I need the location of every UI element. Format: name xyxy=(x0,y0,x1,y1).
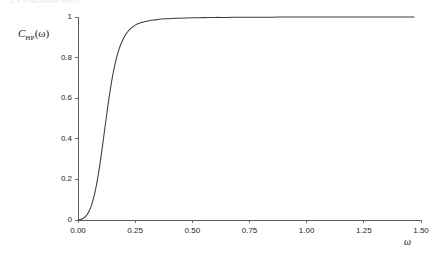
y-tick-label: 0 xyxy=(44,215,72,224)
x-tick-label: 1.25 xyxy=(344,226,384,235)
x-tick-label: 1.00 xyxy=(287,226,327,235)
y-tick-label: 0.6 xyxy=(44,93,72,102)
y-tick-label: 0.4 xyxy=(44,134,72,143)
figure-plot: CHP(ω) ω 00.20.40.60.810.000.250.500.751… xyxy=(0,0,433,261)
x-tick-label: 0.50 xyxy=(172,226,212,235)
y-axis-label-argument: (ω) xyxy=(35,27,50,39)
y-tick-label: 1 xyxy=(44,12,72,21)
data-curve-chp xyxy=(78,17,414,220)
y-axis-label-subscript: HP xyxy=(25,34,34,42)
y-axis-label: CHP(ω) xyxy=(18,27,49,42)
x-tick-label: 0.75 xyxy=(230,226,270,235)
x-tick-label: 1.50 xyxy=(401,226,433,235)
y-tick-label: 0.2 xyxy=(44,174,72,183)
data-series-group xyxy=(78,17,414,220)
x-tick-label: 0.00 xyxy=(58,226,98,235)
x-tick-label: 0.25 xyxy=(115,226,155,235)
x-axis-label: ω xyxy=(404,236,411,247)
axes-group xyxy=(78,17,421,220)
y-tick-label: 0.8 xyxy=(44,53,72,62)
